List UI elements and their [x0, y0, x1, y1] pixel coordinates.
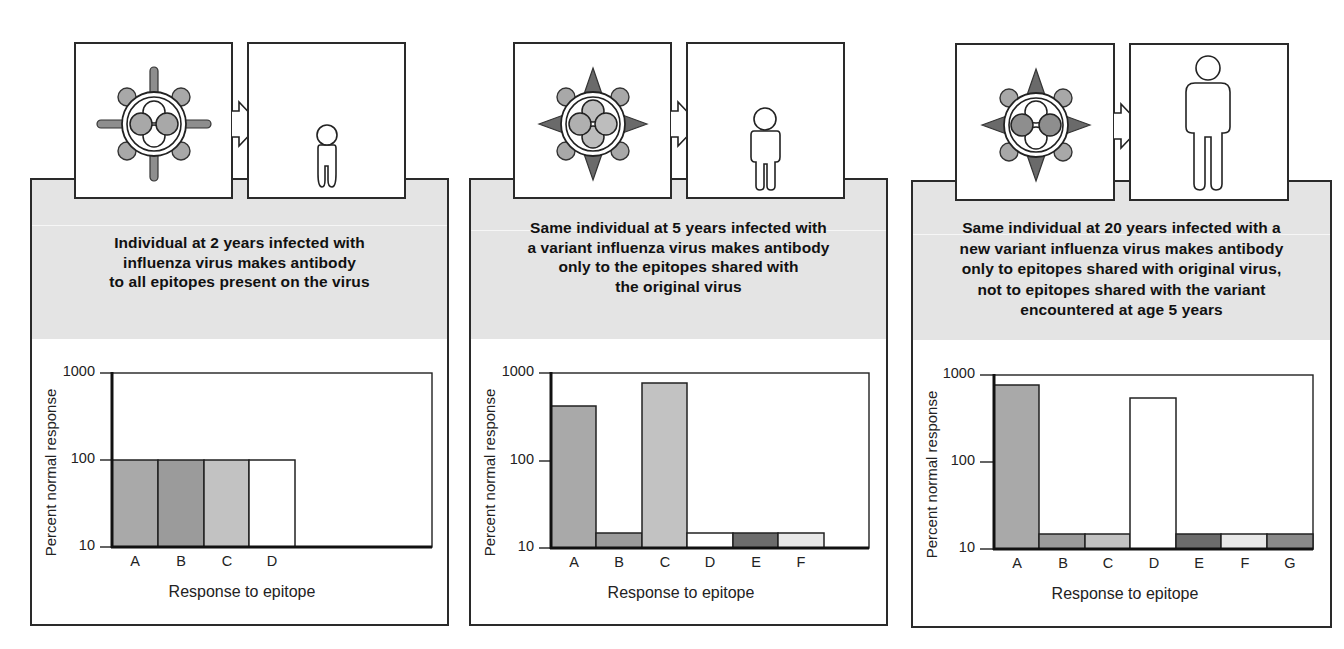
bar-C: [204, 460, 249, 547]
virus-new-variant-icon: [957, 45, 1113, 199]
x-cat-A: A: [120, 553, 150, 569]
bar-B: [1039, 534, 1085, 549]
x-cat-D: D: [1139, 555, 1169, 571]
virus-original-icon: [76, 44, 231, 197]
x-axis-label: Response to epitope: [571, 584, 791, 602]
bar-F: [778, 533, 824, 548]
x-cat-F: F: [1230, 555, 1260, 571]
x-cat-E: E: [741, 554, 771, 570]
bar-C: [1085, 534, 1130, 549]
x-cat-C: C: [1093, 555, 1123, 571]
bar-D: [249, 460, 295, 547]
bar-B: [596, 533, 642, 548]
y-tick-1000: 1000: [925, 365, 975, 381]
bar-E: [1176, 534, 1221, 549]
y-tick-10: 10: [925, 539, 975, 555]
virus-box: [955, 43, 1115, 201]
x-cat-B: B: [604, 554, 634, 570]
child-medium-icon: [688, 44, 843, 197]
x-cat-G: G: [1275, 555, 1305, 571]
y-tick-10: 10: [484, 538, 534, 554]
y-tick-1000: 1000: [484, 363, 534, 379]
x-cat-A: A: [559, 554, 589, 570]
person-box: [247, 42, 406, 199]
bar-E: [733, 533, 778, 548]
bar-C: [642, 383, 687, 548]
bar-chart: [533, 369, 878, 551]
y-tick-10: 10: [45, 537, 95, 553]
bar-chart: [94, 369, 439, 551]
x-cat-D: D: [257, 553, 287, 569]
caption-text: Same individual at 5 years infected with…: [471, 218, 886, 296]
x-cat-B: B: [1048, 555, 1078, 571]
bar-A: [112, 460, 158, 547]
bar-D: [1130, 398, 1176, 549]
person-box: [1129, 43, 1289, 201]
x-cat-D: D: [695, 554, 725, 570]
adult-icon: [1131, 45, 1287, 199]
bar-A: [551, 406, 596, 548]
chart-box: Percent normal response 1000 100 10 A B …: [911, 340, 1332, 628]
x-axis-label: Response to epitope: [132, 583, 352, 601]
chart-box: Percent normal response 1000 100 10 A B …: [30, 339, 449, 626]
x-cat-F: F: [786, 554, 816, 570]
y-tick-100: 100: [45, 450, 95, 466]
caption-text: Individual at 2 years infected with infl…: [32, 233, 447, 292]
chart-box: Percent normal response 1000 100 10 A B …: [469, 339, 888, 626]
child-small-icon: [249, 44, 404, 197]
caption-box: Same individual at 20 years infected wit…: [911, 180, 1332, 342]
y-tick-1000: 1000: [45, 363, 95, 379]
y-tick-100: 100: [925, 452, 975, 468]
x-cat-B: B: [166, 553, 196, 569]
bar-chart: [974, 371, 1319, 553]
x-cat-C: C: [650, 554, 680, 570]
caption-box: Same individual at 5 years infected with…: [469, 178, 888, 341]
person-box: [686, 42, 845, 199]
virus-box: [74, 42, 233, 199]
x-axis-label: Response to epitope: [1015, 585, 1235, 603]
y-tick-100: 100: [484, 451, 534, 467]
bar-D: [687, 533, 733, 548]
bar-A: [994, 385, 1039, 549]
bar-G: [1267, 534, 1313, 549]
caption-text: Same individual at 20 years infected wit…: [913, 218, 1330, 321]
x-cat-A: A: [1002, 555, 1032, 571]
bar-B: [158, 460, 204, 547]
x-cat-E: E: [1184, 555, 1214, 571]
caption-box: Individual at 2 years infected with infl…: [30, 178, 449, 341]
virus-box: [513, 42, 672, 199]
virus-variant-icon: [515, 44, 670, 197]
bar-F: [1221, 534, 1267, 549]
x-cat-C: C: [212, 553, 242, 569]
